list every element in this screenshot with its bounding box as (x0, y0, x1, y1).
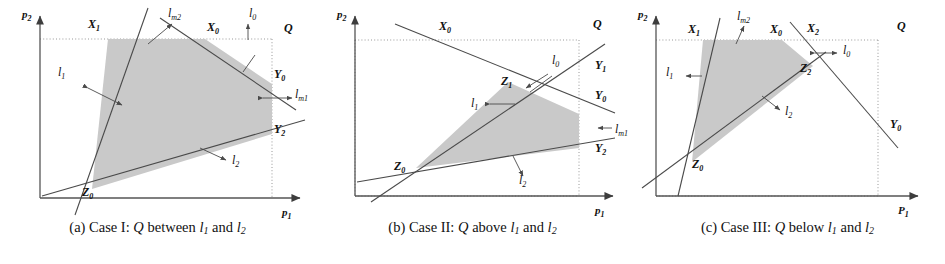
figure-panel-c: lm2 X1 X0 X2 Q l0 Z2 l1 l2 Y0 Z0 p2 P1 (… (630, 0, 945, 264)
label-l1: l1 (471, 96, 478, 112)
label-Y2: Y2 (595, 141, 606, 157)
label-X2: X2 (806, 21, 819, 37)
line-l0-c (790, 22, 898, 148)
figure-panel-row: X1 lm2 X0 l0 Q l1 Y0 lm1 Y2 l2 Z0 p2 p1 … (0, 0, 945, 264)
label-X1: X1 (87, 17, 100, 33)
caption-c: (c) Case III: Q below l1 and l2 (701, 220, 874, 236)
label-lm2: lm2 (737, 9, 750, 25)
label-Z0: Z0 (393, 159, 405, 175)
caption-a: (a) Case I: Q between l1 and l2 (69, 220, 245, 236)
label-Y1: Y1 (595, 58, 606, 74)
label-l0: l0 (843, 43, 850, 59)
label-Z1: Z1 (500, 74, 512, 90)
axis-label-x: p1 (594, 204, 605, 219)
label-Z0: Z0 (81, 185, 93, 201)
label-l2: l2 (232, 153, 239, 169)
label-Z0: Z0 (691, 157, 703, 173)
figure-panel-b: X0 Q l0 Y1 Z1 Y0 l1 lm1 Y2 Z0 l2 p2 p1 (… (315, 0, 630, 264)
plot-area-b: X0 Q l0 Y1 Z1 Y0 l1 lm1 Y2 Z0 l2 p2 p1 (315, 0, 630, 222)
label-lm1: lm1 (615, 122, 628, 138)
shaded-region-a (92, 39, 272, 189)
axis-label-x: p1 (281, 206, 292, 221)
plot-area-c: lm2 X1 X0 X2 Q l0 Z2 l1 l2 Y0 Z0 p2 P1 (630, 0, 945, 222)
label-Y2: Y2 (274, 122, 285, 138)
figure-panel-a: X1 lm2 X0 l0 Q l1 Y0 lm1 Y2 l2 Z0 p2 p1 … (0, 0, 315, 264)
label-Y0: Y0 (890, 117, 901, 133)
label-Q: Q (284, 21, 293, 35)
label-X0: X0 (206, 20, 219, 36)
label-Q: Q (897, 19, 906, 33)
label-l1: l1 (666, 65, 673, 81)
label-Y0: Y0 (274, 67, 285, 83)
label-X0: X0 (438, 19, 451, 35)
label-l1: l1 (58, 65, 65, 81)
label-lm1: lm1 (295, 87, 308, 103)
label-l0: l0 (552, 53, 559, 69)
label-l0: l0 (249, 6, 256, 22)
caption-b: (b) Case II: Q above l1 and l2 (388, 220, 556, 236)
axis-label-y: p2 (336, 8, 347, 23)
label-X1: X1 (687, 22, 700, 38)
axis-label-y: p2 (21, 8, 32, 23)
label-l2: l2 (785, 104, 792, 120)
label-X0: X0 (769, 22, 782, 38)
plot-area-a: X1 lm2 X0 l0 Q l1 Y0 lm1 Y2 l2 Z0 p2 p1 (0, 0, 315, 222)
label-Q: Q (593, 17, 602, 31)
label-lm2: lm2 (168, 6, 181, 22)
label-Y0: Y0 (595, 88, 606, 104)
axis-label-y: p2 (637, 8, 648, 23)
axis-label-x: P1 (898, 204, 909, 219)
